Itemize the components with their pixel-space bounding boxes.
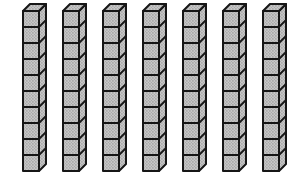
tens-rod-2 <box>63 4 86 171</box>
tens-rod-7 <box>263 4 286 171</box>
tens-rod-1 <box>23 4 46 171</box>
base-ten-blocks-svg <box>0 0 294 180</box>
base-ten-blocks-figure <box>0 0 294 180</box>
tens-rod-5 <box>183 4 206 171</box>
tens-rod-6 <box>223 4 246 171</box>
tens-rod-3 <box>103 4 126 171</box>
tens-rod-4 <box>143 4 166 171</box>
